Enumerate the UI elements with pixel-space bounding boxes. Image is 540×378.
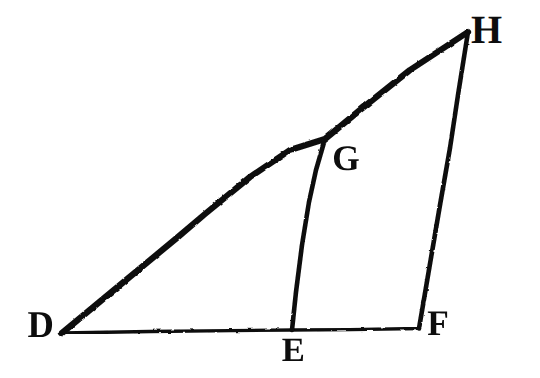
- vertex-label-e: E: [282, 334, 305, 368]
- segment-EG-internal: [292, 139, 325, 330]
- vertex-label-g: G: [332, 140, 359, 176]
- vertex-label-f: F: [427, 305, 449, 341]
- vertex-label-d: D: [28, 306, 54, 344]
- figure-canvas: [0, 0, 540, 378]
- segment-DH-hypotenuse: [62, 32, 468, 333]
- vertex-label-h: H: [471, 10, 502, 50]
- segment-DF-baseline: [62, 329, 419, 334]
- geometry-figure: D E F G H: [0, 0, 540, 378]
- segment-FH-right-side: [419, 32, 468, 329]
